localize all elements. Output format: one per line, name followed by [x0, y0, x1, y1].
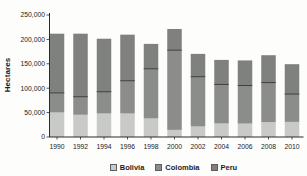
- legend-item-peru: Peru: [211, 163, 238, 172]
- legend-swatch-colombia: [155, 164, 162, 171]
- y-tick-label: 50,000: [24, 109, 45, 116]
- bar-segment-bolivia-1996: [120, 114, 135, 137]
- bar-segment-peru-1996: [120, 35, 135, 81]
- x-tick-label: 2000: [167, 143, 182, 150]
- bar-segment-bolivia-2006: [238, 124, 253, 137]
- x-tick-label: 1998: [143, 143, 158, 150]
- bar-segment-peru-2002: [191, 54, 206, 77]
- bar-segment-peru-1990: [50, 34, 65, 93]
- y-tick-label: 100,000: [20, 85, 45, 92]
- bar-segment-colombia-1992: [73, 97, 88, 115]
- bar-segment-colombia-2010: [285, 94, 300, 122]
- bar-segment-peru-1994: [97, 39, 112, 92]
- bar-segment-colombia-2006: [238, 86, 253, 124]
- x-tick-label: 2010: [284, 143, 299, 150]
- bar-segment-colombia-1998: [144, 69, 159, 119]
- x-tick-label: 1996: [120, 143, 135, 150]
- legend-swatch-bolivia: [110, 164, 117, 171]
- bar-segment-peru-2010: [285, 64, 300, 94]
- bar-segment-colombia-2008: [261, 83, 276, 123]
- y-tick-label: 0: [41, 133, 45, 140]
- bar-segment-peru-1992: [73, 34, 88, 97]
- x-tick-label: 2006: [237, 143, 252, 150]
- bar-segment-bolivia-2002: [191, 126, 206, 137]
- bar-segment-peru-1998: [144, 44, 159, 69]
- y-tick-label: 150,000: [20, 60, 45, 67]
- plot-area: 050,000100,000150,000200,000250,00019901…: [0, 0, 307, 155]
- y-tick-label: 250,000: [20, 11, 45, 18]
- y-tick-label: 200,000: [20, 36, 45, 43]
- bar-segment-peru-2000: [167, 29, 182, 50]
- x-tick-label: 2002: [190, 143, 205, 150]
- bar-segment-colombia-2004: [214, 84, 229, 123]
- bar-segment-peru-2008: [261, 55, 276, 82]
- x-tick-label: 2004: [214, 143, 229, 150]
- legend-label-bolivia: Bolivia: [120, 163, 145, 172]
- bar-segment-bolivia-2000: [167, 130, 182, 137]
- bar-segment-colombia-2002: [191, 77, 206, 127]
- bar-segment-bolivia-2010: [285, 122, 300, 137]
- bar-segment-peru-2004: [214, 60, 229, 85]
- legend-item-bolivia: Bolivia: [110, 163, 145, 172]
- x-tick-label: 1992: [73, 143, 88, 150]
- bar-segment-bolivia-1992: [73, 115, 88, 137]
- bar-segment-colombia-1990: [50, 93, 65, 113]
- bar-segment-colombia-1996: [120, 81, 135, 114]
- x-tick-label: 2008: [261, 143, 276, 150]
- x-tick-label: 1990: [49, 143, 64, 150]
- legend-label-peru: Peru: [221, 163, 238, 172]
- legend-label-colombia: Colombia: [165, 163, 199, 172]
- bar-segment-bolivia-1998: [144, 118, 159, 137]
- bar-segment-bolivia-1994: [97, 114, 112, 137]
- bar-segment-peru-2006: [238, 60, 253, 85]
- stacked-bar-chart: Hectares 050,000100,000150,000200,000250…: [0, 0, 307, 176]
- bar-segment-colombia-2000: [167, 50, 182, 130]
- x-tick-label: 1994: [96, 143, 111, 150]
- bar-segment-colombia-1994: [97, 92, 112, 114]
- bar-segment-bolivia-2008: [261, 122, 276, 137]
- bar-segment-bolivia-2004: [214, 123, 229, 137]
- legend-swatch-peru: [211, 164, 218, 171]
- legend: BoliviaColombiaPeru: [0, 161, 307, 173]
- bar-segment-bolivia-1990: [50, 112, 65, 137]
- legend-item-colombia: Colombia: [155, 163, 199, 172]
